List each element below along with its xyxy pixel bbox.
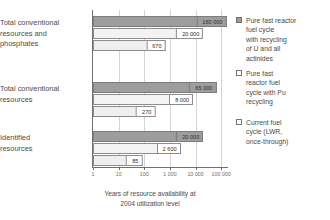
x-axis-tick: [93, 167, 94, 170]
bar-value-label-1-1: 8 000: [169, 94, 193, 105]
x-axis-tick-label: 100 000: [212, 171, 231, 177]
legend-label-line: Pure fast: [246, 69, 286, 78]
legend-item-2[interactable]: Current fuelcycle (LWR,once-through): [236, 118, 288, 146]
legend-label-line: actinides: [246, 54, 296, 63]
x-axis-tick: [196, 167, 197, 170]
legend-label-0: Pure fast reactorfuel cyclewith recyclin…: [246, 16, 296, 63]
bar-value-label-1-0: 65 000: [189, 82, 216, 93]
bar-value-label-0-2: 670: [146, 40, 165, 51]
x-axis-title: Years of resource availability at 2004 u…: [60, 189, 240, 209]
category-label-line: resources: [0, 144, 92, 155]
x-axis-tick: [119, 167, 120, 170]
x-axis-tick-label: 1: [92, 171, 95, 177]
x-axis-title-line: Years of resource availability at: [60, 189, 240, 199]
legend-label-1: Pure fastreactor fuelcycle with Purecycl…: [246, 69, 286, 107]
legend-swatch-icon-1: [236, 70, 242, 76]
x-axis-tick: [170, 167, 171, 170]
gridline: [221, 10, 222, 167]
category-label-1: Total conventional resources: [0, 84, 92, 105]
legend-item-1[interactable]: Pure fastreactor fuelcycle with Purecycl…: [236, 69, 286, 107]
x-axis-tick: [221, 167, 222, 170]
category-label-line: Total conventional: [0, 18, 92, 29]
bar-value-label-2-0: 20 000: [176, 131, 203, 142]
x-axis-tick-label: 100: [140, 171, 149, 177]
bar-value-label-2-1: 2 600: [157, 143, 181, 154]
legend-label-line: reactor fuel: [246, 78, 286, 87]
bar-value-label-2-2: 85: [126, 155, 142, 166]
x-axis-tick: [144, 167, 145, 170]
legend-label-line: fuel cycle: [246, 25, 296, 34]
legend-label-line: once-through): [246, 137, 288, 146]
bar-value-label-0-0: 160 000: [196, 16, 226, 27]
category-label-0: Total conventional resources and phospha…: [0, 18, 92, 50]
bar-value-label-0-1: 20 000: [176, 28, 203, 39]
category-label-line: Total conventional: [0, 84, 92, 95]
legend-label-line: cycle (LWR,: [246, 127, 288, 136]
x-axis-title-line: 2004 utilization level: [60, 199, 240, 209]
category-label-2: Identified resources: [0, 133, 92, 154]
legend-swatch-icon-0: [236, 17, 242, 23]
x-axis-tick-label: 1 000: [163, 171, 176, 177]
category-label-line: Identified: [0, 133, 92, 144]
legend-label-line: Current fuel: [246, 118, 288, 127]
plot-area: 1101001 00010 000100 000160 00020 000670…: [92, 10, 228, 168]
bar-value-label-1-2: 270: [136, 106, 155, 117]
chart-root: Total conventional resources and phospha…: [0, 0, 330, 220]
legend-label-line: of U and all: [246, 44, 296, 53]
legend-label-line: cycle with Pu: [246, 88, 286, 97]
category-label-line: resources and: [0, 29, 92, 40]
x-axis-tick-label: 10: [116, 171, 122, 177]
legend-swatch-icon-2: [236, 119, 242, 125]
legend-label-2: Current fuelcycle (LWR,once-through): [246, 118, 288, 146]
legend-label-line: recycling: [246, 97, 286, 106]
legend-label-line: Pure fast reactor: [246, 16, 296, 25]
legend-item-0[interactable]: Pure fast reactorfuel cyclewith recyclin…: [236, 16, 296, 63]
category-label-line: phosphates: [0, 39, 92, 50]
category-label-line: resources: [0, 95, 92, 106]
x-axis-tick-label: 10 000: [187, 171, 203, 177]
legend-label-line: with recycling: [246, 35, 296, 44]
